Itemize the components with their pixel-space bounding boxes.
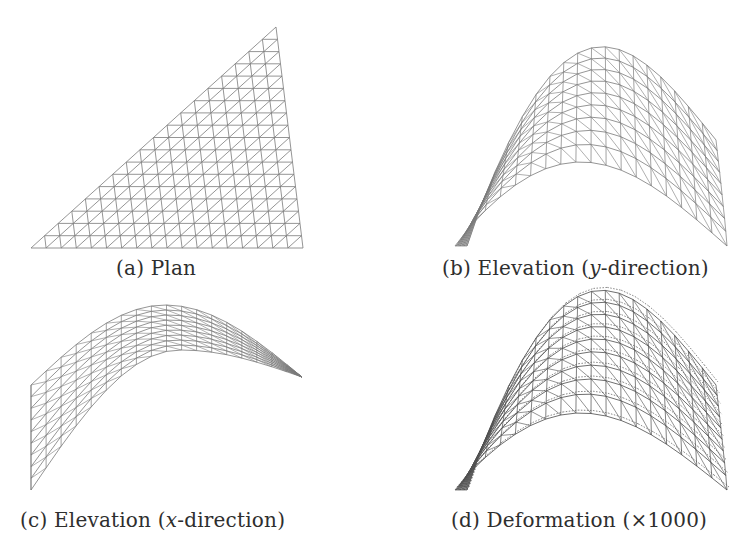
caption-a-title: Plan: [151, 256, 196, 280]
caption-b-title-suffix: -direction): [601, 256, 709, 280]
panel-b-elevation-y-mesh: [455, 47, 727, 246]
caption-a-label: (a): [116, 256, 144, 280]
caption-c-title-prefix: Elevation (: [54, 508, 166, 532]
caption-c-axis: x: [166, 508, 177, 532]
caption-c: (c) Elevation (x-direction): [20, 508, 285, 532]
panel-a-plan-mesh: [31, 27, 303, 248]
panel-d-deformation-mesh: [455, 287, 729, 490]
caption-b-axis: y: [589, 256, 601, 280]
caption-d-label: (d): [451, 508, 480, 532]
caption-b-title-prefix: Elevation (: [478, 256, 590, 280]
caption-b-label: (b): [442, 256, 471, 280]
caption-c-title-suffix: -direction): [177, 508, 285, 532]
caption-d-title-suffix: ×1000): [630, 508, 707, 532]
panel-c-elevation-x-mesh: [31, 305, 302, 490]
caption-a: (a) Plan: [116, 256, 196, 280]
caption-b: (b) Elevation (y-direction): [442, 256, 709, 280]
figure-shell-structure: (a) Plan (b) Elevation (y-direction) (c)…: [0, 0, 749, 549]
caption-c-label: (c): [20, 508, 47, 532]
caption-d-title-prefix: Deformation (: [487, 508, 631, 532]
caption-d: (d) Deformation (×1000): [451, 508, 707, 532]
